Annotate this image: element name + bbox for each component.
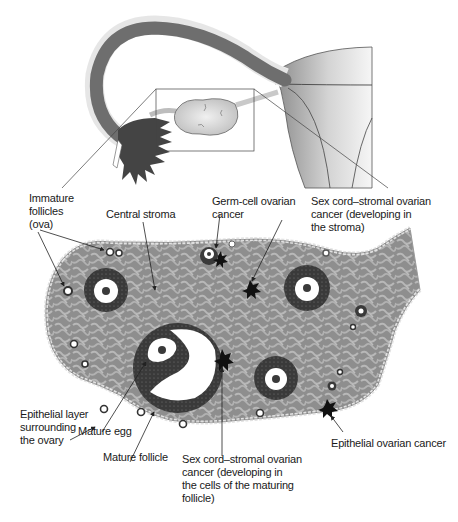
label-mature-follicle: Mature follicle xyxy=(103,451,168,464)
germ-cell-follicle xyxy=(200,247,218,265)
label-mature-egg: Mature egg xyxy=(78,425,132,438)
uterus xyxy=(275,47,372,188)
label-immature-follicles: Immature follicles (ova) xyxy=(29,192,74,231)
label-epithelial-cancer: Epithelial ovarian cancer xyxy=(331,437,446,450)
mature-follicle xyxy=(133,323,223,413)
follicle-right-upper xyxy=(284,265,330,311)
label-stromal-cancer-follicle: Sex cord–stromal ovarian cancer (develop… xyxy=(182,453,302,505)
ovary-cross-section xyxy=(46,228,420,423)
follicle-left xyxy=(84,268,128,312)
ovary-small xyxy=(150,92,278,135)
label-germ-cell-cancer: Germ-cell ovarian cancer xyxy=(212,195,295,221)
fimbriae xyxy=(113,118,172,185)
follicle-right-lower xyxy=(254,356,298,400)
label-stromal-cancer-stroma: Sex cord–stromal ovarian cancer (develop… xyxy=(311,195,431,234)
label-central-stroma: Central stroma xyxy=(106,208,175,221)
